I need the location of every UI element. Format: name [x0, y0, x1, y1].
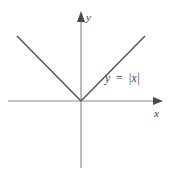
- equation-lhs: y: [104, 72, 111, 85]
- x-axis-label: x: [153, 107, 159, 119]
- curve-equation-label: y = |x|: [104, 72, 140, 85]
- graph-canvas: y x y = |x|: [0, 0, 172, 180]
- curve-left-branch: [17, 36, 81, 101]
- equation-rhs: |x|: [128, 72, 139, 85]
- equation-operator: =: [116, 72, 123, 84]
- curve-right-branch: [81, 36, 145, 101]
- figure-container: y x y = |x|: [0, 0, 172, 180]
- y-axis-arrowhead: [77, 11, 85, 22]
- y-axis-label: y: [85, 11, 91, 23]
- x-axis-arrowhead: [153, 97, 163, 105]
